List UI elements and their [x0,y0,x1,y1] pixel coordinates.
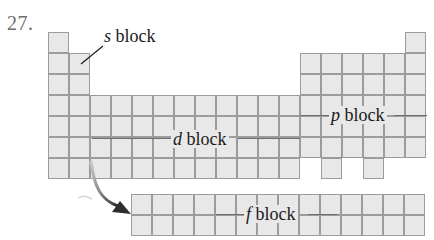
annotation-overlay [0,0,434,240]
periodic-table-diagram: 27. s block d block p block f block [0,0,434,240]
curved-arrow-shaft [91,162,118,206]
s-block-leader-line [81,46,103,64]
faint-smudge [78,196,92,199]
arrowhead-icon [112,201,131,214]
